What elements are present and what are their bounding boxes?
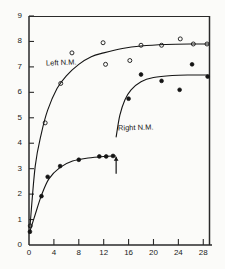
fit-curve-left [30, 44, 208, 227]
data-point-right [104, 155, 108, 159]
left-series-label: Left N.M. [46, 58, 77, 68]
plot-annotations [114, 157, 119, 174]
y-tick-label: 6 [8, 87, 22, 96]
data-point-right [46, 175, 50, 179]
x-tick-label: 16 [121, 248, 137, 257]
y-tick-label: 3 [8, 164, 22, 173]
x-tick-label: 8 [71, 248, 87, 257]
y-tick-label: 0 [8, 240, 22, 249]
x-tick-label: 4 [46, 248, 62, 257]
data-point-right [160, 79, 164, 83]
data-point-right [178, 88, 182, 92]
data-point-left [101, 41, 105, 45]
data-point-right [77, 158, 81, 162]
fitted-curves [30, 44, 209, 232]
y-tick-label: 8 [8, 36, 22, 45]
data-point-right [127, 97, 131, 101]
data-point-right [58, 164, 62, 168]
data-point-right [97, 155, 101, 159]
data-point-right [190, 62, 194, 66]
data-point-left [70, 51, 74, 55]
x-tick-label: 0 [21, 248, 37, 257]
y-tick-label: 5 [8, 113, 22, 122]
chart-figure: 0123456789 0481216202428 Left N.M. Right… [0, 0, 225, 269]
data-point-left [128, 59, 132, 63]
y-tick-label: 4 [8, 138, 22, 147]
data-point-right [40, 194, 44, 198]
y-tick-label: 9 [8, 11, 22, 20]
fit-curve-right [30, 156, 116, 232]
data-point-left [104, 62, 108, 66]
x-tick-label: 24 [170, 248, 186, 257]
x-tick-label: 12 [96, 248, 112, 257]
scatter-plot-canvas [0, 0, 225, 269]
data-point-right [28, 230, 32, 234]
right-series-label: Right N.M. [118, 123, 154, 133]
x-tick-label: 28 [195, 248, 211, 257]
y-tick-label: 2 [8, 189, 22, 198]
data-point-right [206, 75, 210, 79]
y-tick-label: 7 [8, 62, 22, 71]
x-tick-label: 20 [145, 248, 161, 257]
data-point-right [139, 73, 143, 77]
data-point-left [139, 43, 143, 47]
data-point-left [178, 37, 182, 41]
y-tick-label: 1 [8, 215, 22, 224]
data-point-right [111, 154, 115, 158]
